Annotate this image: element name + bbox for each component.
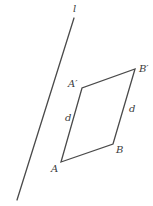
line-l <box>17 18 74 200</box>
point-label-a-prime: A′ <box>67 78 78 89</box>
point-label-b: B <box>115 144 123 155</box>
point-label-a: A <box>50 163 58 174</box>
line-label-l: l <box>73 3 76 14</box>
point-label-b-prime: B′ <box>138 63 149 74</box>
segment-label-d-left: d <box>65 112 71 123</box>
segment-label-d-right: d <box>129 103 135 114</box>
translation-diagram: l A′ B′ B A d d <box>0 0 153 206</box>
